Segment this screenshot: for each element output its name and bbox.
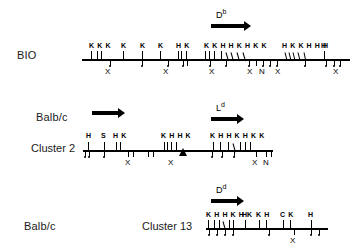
cluster-label-13: Cluster 13 — [142, 220, 192, 232]
polymorphic-dot — [141, 65, 143, 67]
site-group-label: K K K — [89, 42, 111, 50]
enzyme-mark-label: X — [252, 158, 257, 167]
restriction-tick — [167, 142, 168, 151]
polymorphic-tick — [187, 59, 188, 66]
restriction-tick — [250, 142, 251, 151]
site-group-label: H — [321, 42, 327, 50]
restriction-tick — [123, 51, 124, 60]
restriction-tick — [91, 51, 92, 60]
enzyme-mark-label: X — [290, 236, 295, 245]
enzyme-mark-label: X — [275, 67, 280, 76]
site-group-label: K H — [256, 211, 270, 219]
restriction-tick — [240, 142, 241, 151]
site-group-label: K H H K H K K — [210, 132, 265, 140]
polymorphic-dot — [304, 65, 306, 67]
restriction-tick — [164, 142, 165, 151]
enzyme-mark-label: X — [333, 67, 338, 76]
restriction-tick — [213, 142, 214, 151]
enzyme-mark-label: X — [209, 67, 214, 76]
haplotype-label-balbc-2: Balb/c — [36, 111, 68, 123]
polymorphic-tick — [271, 150, 272, 157]
polymorphic-tick — [148, 150, 149, 157]
restriction-tick — [120, 142, 121, 151]
haplotype-label-balbc-13: Balb/c — [24, 220, 56, 232]
site-group-label: K — [140, 42, 146, 50]
enzyme-mark-label: X — [247, 67, 252, 76]
figure-canvas: Db BIO K K K K K K H K K K H H K H K K H… — [0, 0, 361, 248]
restriction-tick — [266, 220, 267, 229]
site-group-label: K K H H K H K K — [204, 42, 267, 50]
restriction-tick — [160, 51, 161, 60]
restriction-tick — [245, 220, 246, 229]
restriction-tick — [290, 220, 291, 229]
enzyme-mark-label: N — [259, 67, 265, 76]
restriction-tick — [176, 142, 177, 151]
polymorphic-tick — [266, 150, 267, 157]
restriction-tick — [178, 51, 179, 60]
restriction-tick — [245, 142, 246, 151]
restriction-tick — [205, 51, 206, 60]
restriction-tick — [171, 142, 172, 151]
site-group-label: S — [101, 132, 106, 140]
restriction-tick — [181, 51, 182, 60]
enzyme-mark-label: X — [125, 158, 130, 167]
site-group-label: H K — [176, 42, 190, 50]
polymorphic-tick — [256, 59, 257, 66]
polymorphic-tick — [256, 150, 257, 157]
restriction-tick — [220, 142, 221, 151]
restriction-tick — [219, 220, 220, 229]
restriction-tick — [214, 220, 215, 229]
restriction-tick — [214, 51, 215, 60]
polymorphic-dot — [88, 156, 90, 158]
site-group-label: H — [86, 132, 92, 140]
restriction-tick — [259, 220, 260, 229]
polymorphic-dot — [339, 65, 341, 67]
gene-label-dd: Dd — [216, 183, 226, 195]
restriction-tick — [97, 51, 98, 60]
haplotype-label-bio: BIO — [17, 49, 37, 61]
restriction-tick — [324, 51, 325, 60]
polymorphic-dot — [216, 234, 218, 236]
restriction-tick — [229, 220, 230, 229]
polymorphic-dot — [233, 156, 235, 158]
polymorphic-tick — [133, 150, 134, 157]
restriction-tick — [101, 51, 102, 60]
restriction-tick — [221, 51, 222, 60]
polymorphic-dot — [182, 65, 184, 67]
site-group-label: H — [242, 211, 248, 219]
gene-label-ld: Ld — [216, 101, 225, 113]
restriction-tick — [283, 220, 284, 229]
polymorphic-dot — [221, 156, 223, 158]
transcription-arrow-ld — [211, 117, 238, 121]
site-group-label: K — [158, 42, 164, 50]
polymorphic-dot — [318, 234, 320, 236]
polymorphic-dot — [225, 65, 227, 67]
polymorphic-dot — [208, 234, 210, 236]
enzyme-mark-label: X — [105, 67, 110, 76]
site-group-label: H — [308, 211, 314, 219]
transcription-arrow-dd — [211, 199, 238, 203]
enzyme-mark-label: X — [168, 158, 173, 167]
cluster-label-2: Cluster 2 — [31, 142, 75, 154]
polymorphic-tick — [294, 228, 295, 235]
insertion-triangle-marker — [179, 148, 187, 156]
transcription-arrow-cluster2-left — [92, 111, 119, 115]
polymorphic-dot — [224, 234, 226, 236]
polymorphic-dot — [310, 234, 312, 236]
site-group-label: C K — [280, 211, 294, 219]
site-group-label: H K — [113, 132, 127, 140]
polymorphic-dot — [103, 156, 105, 158]
polymorphic-dot — [269, 65, 271, 67]
transcription-arrow-db — [211, 24, 245, 28]
enzyme-mark-label: X — [163, 67, 168, 76]
polymorphic-dot — [84, 156, 86, 158]
site-group-label: K — [121, 42, 127, 50]
polymorphic-dot — [325, 65, 327, 67]
site-group-label: K H H K — [161, 132, 191, 140]
polymorphic-dot — [232, 234, 234, 236]
polymorphic-tick — [153, 150, 154, 157]
polymorphic-dot — [211, 156, 213, 158]
enzyme-mark-label: N — [263, 158, 269, 167]
restriction-tick — [116, 142, 117, 151]
restriction-tick — [228, 142, 229, 151]
